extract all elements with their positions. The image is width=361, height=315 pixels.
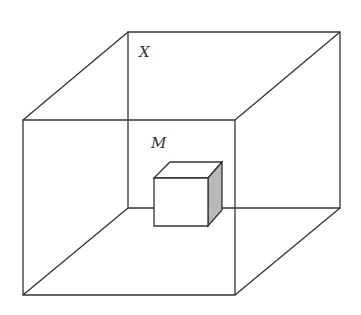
edge-top-left — [23, 32, 128, 120]
label-x: X — [138, 43, 151, 61]
cube-front-face — [154, 178, 208, 226]
edge-top-right — [235, 32, 340, 120]
small-cube — [154, 162, 222, 226]
room-diagram: X M — [0, 0, 361, 315]
label-m: M — [150, 134, 167, 152]
edge-bottom-right — [235, 208, 340, 295]
edge-bottom-left — [23, 208, 128, 295]
